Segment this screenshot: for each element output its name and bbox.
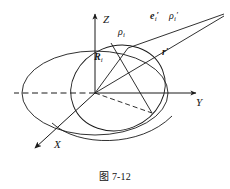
- vector-r-prime-line: [95, 16, 224, 93]
- rho-i-subscript: i: [123, 31, 125, 39]
- vector-R-i-label: Ri: [94, 52, 103, 64]
- x-axis-line: [35, 93, 95, 148]
- e-i-prime-label: ei′: [150, 11, 159, 23]
- caption-number: 7-12: [112, 171, 131, 182]
- rho-i-label: ρi: [118, 27, 125, 39]
- figure-container: Z Y X Ri ρi ei′ ρi′ r′ 图 7-12: [0, 0, 230, 189]
- z-axis-label: Z: [103, 14, 109, 25]
- tilted-plane-ellipse: [58, 31, 178, 145]
- rho-i-prime-label: ρi′: [169, 11, 178, 23]
- vector-R-i-subscript: i: [101, 56, 103, 64]
- vector-R-i-symbol: R: [94, 51, 101, 62]
- rho-i-prime-mark: ′: [176, 10, 178, 20]
- charge-point-connector: [111, 43, 152, 113]
- dashed-projection-line: [95, 93, 152, 113]
- caption-prefix: 图: [99, 171, 109, 182]
- x-axis-label: X: [54, 139, 61, 150]
- r-prime-mark: ′: [166, 46, 169, 56]
- figure-caption: 图 7-12: [0, 168, 230, 183]
- r-prime-label: r′: [162, 47, 168, 57]
- lower-shell-arc: [52, 116, 172, 141]
- e-i-prime-mark: ′: [157, 10, 160, 20]
- y-axis-label: Y: [196, 97, 202, 108]
- vector-diagram: [0, 0, 230, 189]
